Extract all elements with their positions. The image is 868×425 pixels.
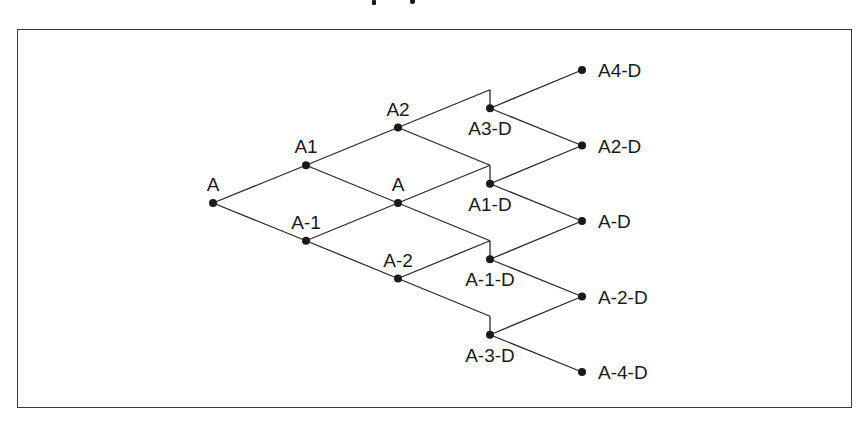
tree-edge-up <box>490 146 582 184</box>
tree-node-n0_0 <box>209 199 217 207</box>
tree-edge-down <box>306 165 398 203</box>
tree-edge-up <box>213 165 306 203</box>
node-label-n3_2: A-1-D <box>465 269 515 290</box>
node-label-n3_0: A3-D <box>468 118 511 139</box>
node-label-n1_1: A-1 <box>291 212 321 233</box>
tree-edge-up <box>490 221 582 259</box>
tree-edge-up <box>490 297 582 335</box>
tree-node-n4_1 <box>578 142 586 150</box>
tree-edge-up <box>306 128 398 166</box>
tree-node-n2_1 <box>394 199 402 207</box>
node-label-n3_1: A1-D <box>468 194 511 215</box>
node-label-n4_4: A-4-D <box>598 362 648 383</box>
node-label-n2_0: A2 <box>386 99 409 120</box>
tree-node-n2_2 <box>394 275 402 283</box>
node-label-n2_1: A <box>392 174 405 195</box>
node-label-n0_0: A <box>207 174 220 195</box>
tree-node-n1_1 <box>302 237 310 245</box>
binomial-tree-diagram: AA1A-1A2AA-2A3-DA1-DA-1-DA-3-DA4-DA2-DA-… <box>0 0 868 425</box>
tree-node-n3_2 <box>486 255 494 263</box>
tree-node-n3_0 <box>486 104 494 112</box>
node-label-n4_0: A4-D <box>598 60 641 81</box>
node-label-n3_3: A-3-D <box>465 345 515 366</box>
tree-node-n4_3 <box>578 293 586 301</box>
node-label-n1_0: A1 <box>294 136 317 157</box>
tree-node-n4_4 <box>578 368 586 376</box>
tree-node-n3_3 <box>486 331 494 339</box>
tree-node-n3_1 <box>486 180 494 188</box>
node-label-n4_2: A-D <box>598 211 631 232</box>
tree-edge-up <box>490 70 582 108</box>
tree-node-n2_0 <box>394 124 402 132</box>
tree-node-n1_0 <box>302 161 310 169</box>
node-label-n2_2: A-2 <box>383 250 413 271</box>
tree-node-n4_2 <box>578 217 586 225</box>
node-label-n4_3: A-2-D <box>598 287 648 308</box>
node-label-n4_1: A2-D <box>598 136 641 157</box>
tree-node-n4_0 <box>578 66 586 74</box>
